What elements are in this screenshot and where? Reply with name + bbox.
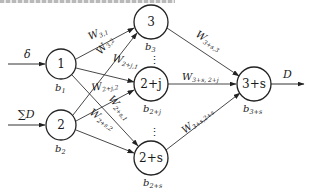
weight-label-3ps-3: W3+s,3 — [193, 28, 223, 53]
edge-1-2pj — [76, 68, 134, 82]
node-3: 3 — [134, 5, 168, 39]
bias-label-3: b3 — [145, 41, 156, 54]
svg-text:2+j: 2+j — [140, 77, 161, 91]
weight-label-2pj-1: W2+j,1 — [111, 52, 140, 71]
node-2ps: 2+s — [134, 141, 168, 175]
weight-label-2ps-1: W2+s,1 — [106, 93, 133, 122]
diagram-canvas: δ ∑D D 1 2 3 2+j — [0, 0, 309, 195]
bias-label-2pj: b2+j — [143, 103, 161, 116]
edge-2-2ps — [76, 130, 134, 153]
node-2: 2 — [46, 110, 76, 140]
bias-label-1: b1 — [55, 82, 66, 95]
ellipsis-upper: ⋮ — [149, 54, 160, 67]
svg-text:2: 2 — [57, 118, 65, 132]
bias-label-3ps: b3+s — [243, 103, 263, 116]
weight-label-3-1: W3,1 — [86, 24, 109, 43]
output-label: D — [282, 68, 292, 81]
ellipsis-lower: ⋮ — [149, 126, 160, 139]
input-label-sumd: ∑D — [18, 108, 35, 121]
node-2pj: 2+j — [134, 67, 168, 101]
neural-network-diagram: δ ∑D D 1 2 3 2+j — [0, 0, 309, 195]
node-3ps: 3+s — [237, 67, 271, 101]
bias-label-2: b2 — [55, 143, 66, 156]
weight-label-3ps-2ps: W3+s,2+s — [179, 105, 215, 137]
input-label-delta: δ — [24, 48, 31, 61]
bias-label-2ps: b2+s — [143, 177, 163, 190]
svg-text:3+s: 3+s — [242, 77, 266, 91]
svg-text:2+s: 2+s — [139, 151, 163, 165]
weight-label-3ps-2pj: W3+s, 2+j — [182, 71, 219, 84]
svg-text:3: 3 — [147, 15, 155, 29]
node-1: 1 — [46, 49, 76, 79]
svg-text:1: 1 — [57, 57, 65, 71]
truncated-caption-text — [0, 0, 175, 3]
